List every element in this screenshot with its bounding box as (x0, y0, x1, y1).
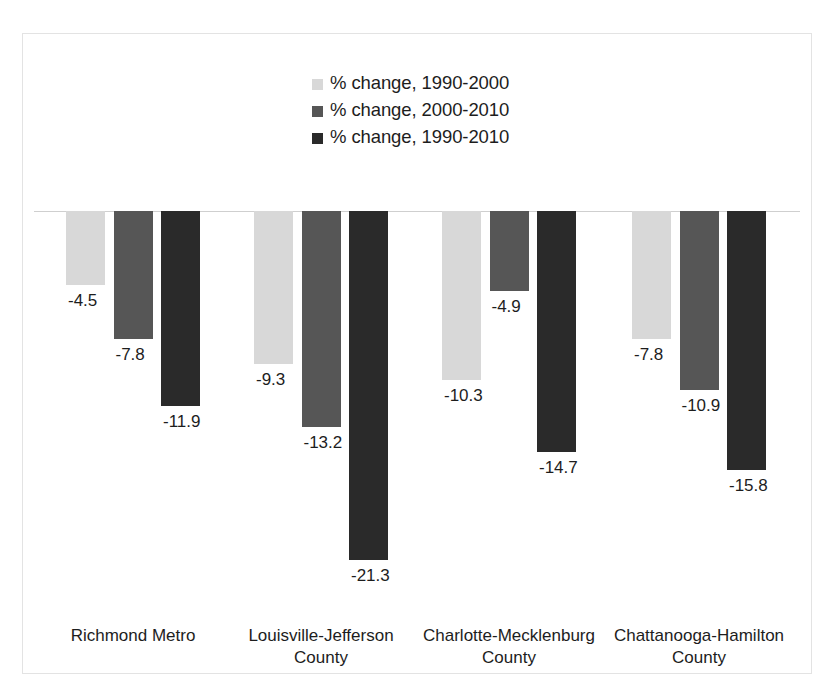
bar-1-1 (302, 211, 341, 427)
bar-2-1 (490, 211, 529, 291)
bar-1-0 (254, 211, 293, 364)
bar-3-0 (632, 211, 671, 339)
bar-2-2 (537, 211, 576, 452)
bar-1-2 (349, 211, 388, 560)
bar-value-label-3-2: -15.8 (729, 477, 768, 494)
category-label-line-2-1: County (409, 647, 609, 669)
bar-value-label-2-1: -4.9 (492, 298, 521, 315)
bar-value-label-0-1: -7.8 (116, 346, 145, 363)
category-label-0: Richmond Metro (33, 625, 233, 647)
bar-3-2 (727, 211, 766, 470)
bar-value-label-2-2: -14.7 (539, 459, 578, 476)
bar-value-label-1-2: -21.3 (351, 567, 390, 584)
plot-area: -4.5-7.8-11.9-9.3-13.2-21.3-10.3-4.9-14.… (22, 33, 812, 674)
bar-value-label-0-2: -11.9 (163, 413, 201, 430)
category-label-line-3-1: County (599, 647, 799, 669)
category-label-line-3-0: Chattanooga-Hamilton (599, 625, 799, 647)
category-label-1: Louisville-JeffersonCounty (221, 625, 421, 669)
bar-0-0 (66, 211, 105, 285)
bar-3-1 (680, 211, 719, 390)
category-label-3: Chattanooga-HamiltonCounty (599, 625, 799, 669)
bar-2-0 (442, 211, 481, 380)
category-label-line-2-0: Charlotte-Mecklenburg (409, 625, 609, 647)
bar-value-label-3-0: -7.8 (634, 346, 663, 363)
bar-0-2 (161, 211, 200, 406)
bar-value-label-0-0: -4.5 (68, 292, 97, 309)
bar-0-1 (114, 211, 153, 339)
category-label-line-1-1: County (221, 647, 421, 669)
category-label-line-0-0: Richmond Metro (33, 625, 233, 647)
bar-value-label-1-1: -13.2 (304, 434, 343, 451)
category-label-line-1-0: Louisville-Jefferson (221, 625, 421, 647)
bar-value-label-3-1: -10.9 (682, 397, 721, 414)
bar-value-label-1-0: -9.3 (256, 371, 285, 388)
bar-value-label-2-0: -10.3 (444, 387, 483, 404)
category-label-2: Charlotte-MecklenburgCounty (409, 625, 609, 669)
chart-figure: % change, 1990-2000 % change, 2000-2010 … (0, 0, 830, 698)
